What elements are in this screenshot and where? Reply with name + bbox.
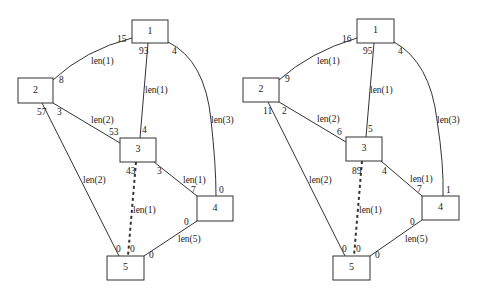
port-1-2-src: 15 <box>117 34 127 44</box>
node-2[interactable]: 2 <box>243 78 279 102</box>
port-1-4-dst: 0 <box>219 185 224 195</box>
port-2-5-src: 11 <box>263 106 272 116</box>
edge-label-2-5: len(2) <box>309 175 332 186</box>
node-2[interactable]: 2 <box>18 78 53 103</box>
port-1-2-src: 16 <box>342 34 352 44</box>
node-label: 4 <box>438 201 443 212</box>
diagram-canvas: len(1) len(1) len(3) len(2) len(2) len(1… <box>0 0 478 297</box>
port-3-4-dst: 7 <box>191 185 196 195</box>
node-label: 1 <box>148 25 153 36</box>
edge-label-2-5: len(2) <box>83 175 106 186</box>
port-2-5-src: 57 <box>37 107 47 117</box>
node-label: 5 <box>349 261 354 272</box>
node-4[interactable]: 4 <box>197 196 233 221</box>
graph-right: len(1) len(1) len(3) len(2) len(2) len(1… <box>243 19 460 280</box>
node-5[interactable]: 5 <box>333 256 370 280</box>
port-2-3-dst: 53 <box>109 127 119 137</box>
edge-1-4 <box>394 42 443 196</box>
node-1[interactable]: 1 <box>357 19 394 43</box>
graph-left: len(1) len(1) len(3) len(2) len(2) len(1… <box>18 20 234 280</box>
edge-label-1-4: len(3) <box>211 115 234 126</box>
edge-1-4 <box>168 42 216 196</box>
port-3-5-src: 89 <box>352 166 362 176</box>
node-3[interactable]: 3 <box>346 137 382 161</box>
node-label: 4 <box>213 202 218 213</box>
port-2-5-dst: 0 <box>116 244 121 254</box>
port-3-5-src: 43 <box>126 166 136 176</box>
node-3[interactable]: 3 <box>120 138 156 162</box>
port-3-4-src: 3 <box>157 166 162 176</box>
edge-label-3-5: len(1) <box>133 205 156 216</box>
port-1-3-src: 95 <box>363 46 373 56</box>
node-4[interactable]: 4 <box>422 196 459 220</box>
node-label: 5 <box>123 261 128 272</box>
port-3-4-src: 4 <box>382 166 387 176</box>
port-3-5-dst: 0 <box>356 244 361 254</box>
edge-label-4-5: len(5) <box>178 234 201 245</box>
port-1-3-src: 93 <box>139 46 149 56</box>
port-1-4-src: 4 <box>172 46 177 56</box>
port-4-5-src: 0 <box>410 217 415 227</box>
edge-label-1-2: len(1) <box>317 56 340 67</box>
edge-label-1-3: len(1) <box>145 85 168 96</box>
edge-2-5 <box>268 102 345 256</box>
node-1[interactable]: 1 <box>132 20 168 43</box>
port-1-4-src: 4 <box>398 46 403 56</box>
edge-label-3-5: len(1) <box>359 205 382 216</box>
port-3-4-dst: 7 <box>417 184 422 194</box>
port-2-5-dst: 0 <box>342 244 347 254</box>
node-label: 1 <box>373 24 378 35</box>
edge-label-1-3: len(1) <box>370 85 393 96</box>
port-3-5-dst: 0 <box>130 244 135 254</box>
port-1-3-dst: 4 <box>142 125 147 135</box>
node-label: 3 <box>136 143 141 154</box>
port-2-3-src: 3 <box>57 107 62 117</box>
port-2-3-dst: 6 <box>337 127 342 137</box>
node-5[interactable]: 5 <box>107 256 144 280</box>
edge-label-2-3: len(2) <box>91 115 114 126</box>
edge-label-4-5: len(5) <box>405 234 428 245</box>
node-label: 2 <box>259 83 264 94</box>
port-1-2-dst: 9 <box>285 74 290 84</box>
edge-label-2-3: len(2) <box>317 114 340 125</box>
edge-2-5 <box>42 103 119 256</box>
node-label: 2 <box>33 84 38 95</box>
port-2-3-src: 2 <box>282 106 287 116</box>
port-1-3-dst: 5 <box>368 124 373 134</box>
port-4-5-dst: 0 <box>375 250 380 260</box>
port-4-5-dst: 0 <box>149 250 154 260</box>
port-1-2-dst: 8 <box>59 75 64 85</box>
port-4-5-src: 0 <box>184 217 189 227</box>
edge-label-1-4: len(3) <box>437 115 460 126</box>
edge-label-1-2: len(1) <box>91 56 114 67</box>
port-1-4-dst: 1 <box>446 185 451 195</box>
node-label: 3 <box>362 142 367 153</box>
